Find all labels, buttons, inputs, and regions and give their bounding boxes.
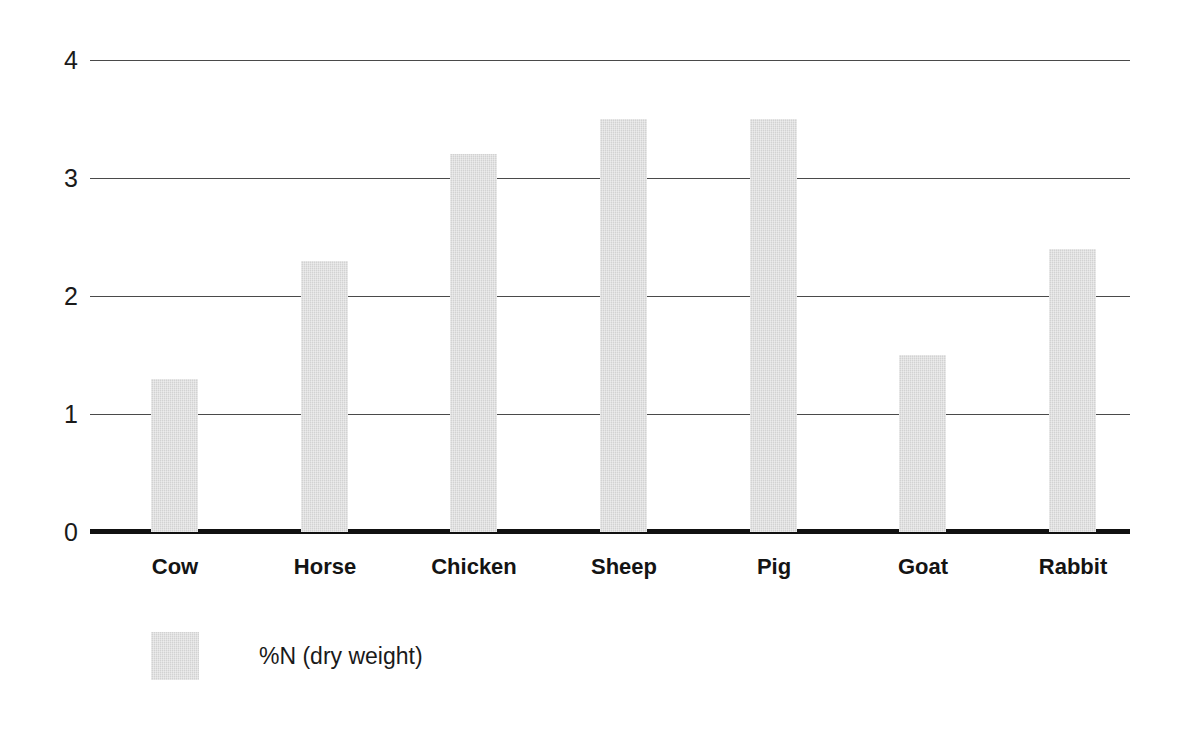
x-axis-label-rabbit: Rabbit [1039, 553, 1107, 581]
bar-chart: 4 3 2 1 0 Cow Horse Chicken Sheep Pig Go… [0, 0, 1190, 733]
x-axis-tick-labels: Cow Horse Chicken Sheep Pig Goat Rabbit [90, 553, 1130, 585]
legend-label: %N (dry weight) [259, 645, 423, 668]
bar-goat[interactable] [899, 355, 946, 532]
bar-horse[interactable] [301, 261, 348, 532]
x-axis-label-chicken: Chicken [431, 553, 517, 581]
bar-series [90, 60, 1130, 532]
x-axis-label-goat: Goat [898, 553, 948, 581]
bar-cow[interactable] [151, 379, 198, 532]
y-axis-tick-label: 2 [18, 284, 78, 309]
legend-swatch-icon [151, 632, 199, 680]
bar-pig[interactable] [750, 119, 797, 532]
bar-sheep[interactable] [600, 119, 647, 532]
y-axis-tick-label: 3 [18, 166, 78, 191]
y-axis-tick-label: 0 [18, 520, 78, 545]
chart-legend: %N (dry weight) [151, 632, 423, 680]
x-axis-label-pig: Pig [757, 553, 791, 581]
x-axis-label-sheep: Sheep [591, 553, 657, 581]
x-axis-label-cow: Cow [152, 553, 198, 581]
y-axis-tick-label: 1 [18, 402, 78, 427]
bar-chicken[interactable] [450, 154, 497, 532]
bar-rabbit[interactable] [1049, 249, 1096, 532]
x-axis-label-horse: Horse [294, 553, 356, 581]
y-axis-tick-label: 4 [18, 48, 78, 73]
